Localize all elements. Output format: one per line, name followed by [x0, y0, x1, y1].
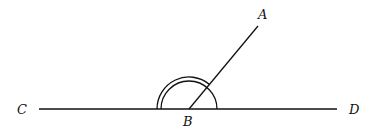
- label-a: A: [257, 7, 267, 22]
- label-d: D: [348, 102, 360, 117]
- ray-ba: [189, 26, 258, 109]
- label-c: C: [17, 102, 27, 117]
- angle-diagram: A B C D: [0, 0, 377, 133]
- label-b: B: [182, 114, 193, 129]
